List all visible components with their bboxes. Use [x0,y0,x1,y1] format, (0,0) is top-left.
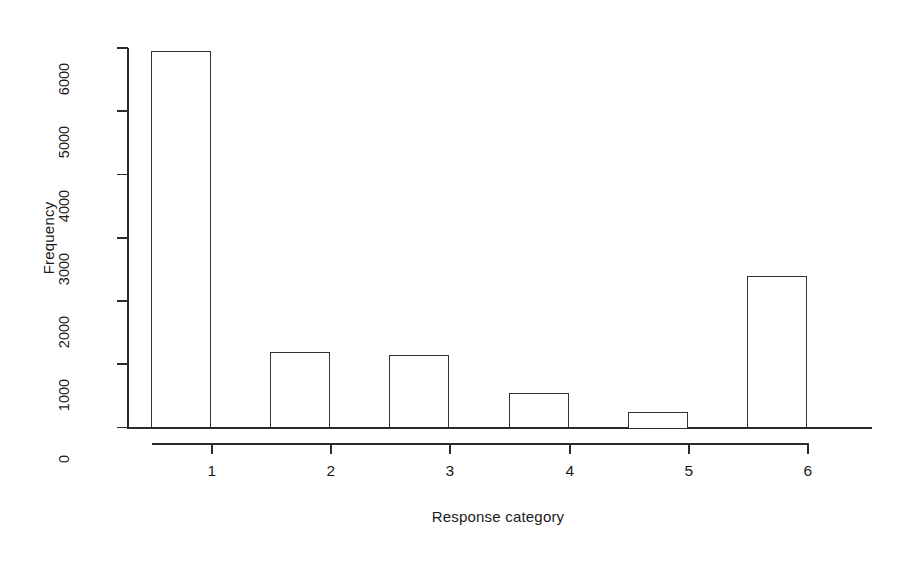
y-axis-tick-label-text: 4000 [56,176,72,236]
y-axis-tick-label: 6000 [52,41,112,55]
x-axis-tick [807,443,809,454]
x-axis-tick [688,443,690,454]
y-axis-tick-label-text: 2000 [56,302,72,362]
x-axis-tick [330,443,332,454]
x-axis-tick [569,443,571,454]
y-axis-tick [117,237,128,239]
x-axis-tick-label: 5 [669,462,709,480]
y-axis-tick-label-text: 6000 [56,49,72,109]
y-axis-tick [117,300,128,302]
y-axis-tick [117,363,128,365]
bar [509,393,569,428]
y-axis-tick-label-text: 3000 [56,239,72,299]
x-axis-tick-label: 2 [311,462,351,480]
x-axis-tick-label: 4 [550,462,590,480]
x-axis-line [152,443,808,445]
y-axis-tick [117,110,128,112]
x-axis-tick-label: 3 [430,462,470,480]
bar [151,51,211,427]
x-axis-tick-label: 1 [192,462,232,480]
bar [628,412,688,428]
x-axis-title: Response category [148,508,848,525]
x-axis-tick-label: 6 [788,462,828,480]
y-axis-tick [117,47,128,49]
x-axis-tick [211,443,213,454]
bar [747,276,807,428]
bar-chart: Frequency 0100020003000400050006000 1234… [0,0,902,564]
bar [389,355,449,427]
bar [270,352,330,427]
y-axis-tick-label-text: 0 [56,429,72,489]
y-axis-tick-label-text: 5000 [56,112,72,172]
y-axis-tick [117,174,128,176]
y-axis-tick-label-text: 1000 [56,365,72,425]
x-axis-tick [449,443,451,454]
